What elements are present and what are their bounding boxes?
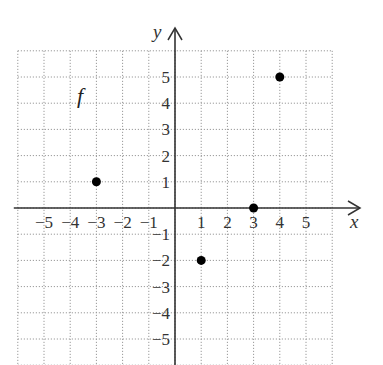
x-tick-label: −3 — [87, 213, 105, 232]
data-points — [92, 73, 284, 265]
x-tick-label: 3 — [249, 213, 258, 232]
y-tick-label: −2 — [152, 251, 170, 270]
x-tick-labels: −5−4−3−2−112345 — [35, 213, 310, 232]
y-tick-label: 2 — [162, 147, 171, 166]
x-tick-label: 4 — [276, 213, 285, 232]
x-tick-label: 1 — [197, 213, 206, 232]
y-tick-label: −5 — [152, 330, 170, 349]
x-tick-label: −4 — [61, 213, 80, 232]
x-axis-label: x — [349, 211, 359, 232]
function-graph: −5−4−3−2−112345 54321−1−2−3−4−5 x y f — [0, 0, 383, 365]
function-label: f — [77, 83, 86, 108]
y-tick-label: 5 — [162, 68, 171, 87]
y-tick-label: 3 — [162, 120, 171, 139]
data-point — [92, 177, 101, 186]
x-tick-label: −2 — [114, 213, 132, 232]
y-tick-label: −4 — [152, 304, 171, 323]
x-tick-label: 2 — [223, 213, 232, 232]
data-point — [275, 73, 284, 82]
x-tick-label: 5 — [302, 213, 311, 232]
axes — [14, 28, 360, 365]
y-tick-label: 1 — [162, 173, 171, 192]
x-tick-label: −5 — [35, 213, 53, 232]
data-point — [249, 204, 258, 213]
y-tick-label: 4 — [162, 94, 171, 113]
data-point — [197, 256, 206, 265]
y-axis-label: y — [151, 21, 162, 42]
y-tick-label: −3 — [152, 278, 170, 297]
y-tick-label: −1 — [152, 225, 170, 244]
